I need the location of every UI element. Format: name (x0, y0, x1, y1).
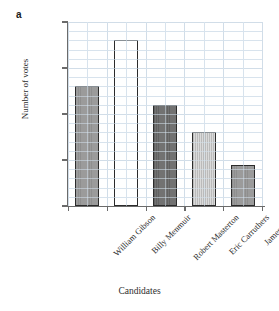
y-tick-mark (62, 159, 67, 160)
x-tick-mark (146, 206, 147, 211)
x-tick-mark (262, 206, 263, 211)
y-tick-mark (62, 205, 67, 206)
bar-chart-figure: a 010203040 Number of votes Candidates W… (0, 0, 279, 311)
y-tick-mark (62, 67, 67, 68)
x-category-labels: William GibsonBilly MenmuirRobert Master… (0, 0, 279, 311)
x-category-label: William Gibson (112, 213, 157, 258)
y-tick-mark (62, 21, 67, 22)
y-tick-mark (62, 113, 67, 114)
x-tick-mark (107, 206, 108, 211)
x-tick-mark (223, 206, 224, 211)
x-tick-mark (184, 206, 185, 211)
x-tick-mark (68, 206, 69, 211)
